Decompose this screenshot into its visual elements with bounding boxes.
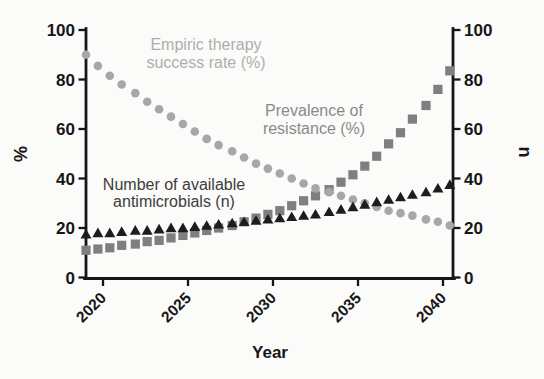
data-point-square bbox=[81, 246, 90, 255]
data-point-triangle bbox=[189, 221, 200, 231]
data-point-triangle bbox=[383, 194, 394, 204]
y-tick-label-left: 60 bbox=[56, 120, 75, 139]
data-point-triangle bbox=[154, 224, 165, 234]
annotation-empiric-line1: Empiric therapy bbox=[150, 36, 261, 53]
data-point-circle bbox=[191, 127, 200, 136]
series-markers bbox=[81, 50, 456, 254]
data-point-square bbox=[93, 244, 102, 253]
y-tick-label-right: 100 bbox=[464, 21, 492, 40]
data-point-circle bbox=[434, 218, 443, 227]
data-point-circle bbox=[155, 105, 164, 114]
data-point-square bbox=[117, 241, 126, 250]
data-point-circle bbox=[396, 209, 405, 218]
axes bbox=[85, 29, 455, 279]
data-point-circle bbox=[299, 179, 308, 188]
data-point-triangle bbox=[310, 209, 321, 219]
data-point-triangle bbox=[92, 228, 103, 238]
data-point-square bbox=[360, 162, 369, 171]
data-point-circle bbox=[131, 89, 140, 98]
y-tick-label-left: 100 bbox=[47, 21, 75, 40]
data-point-circle bbox=[106, 71, 115, 80]
data-point-square bbox=[372, 152, 381, 161]
y-tick-label-left: 0 bbox=[66, 269, 75, 288]
x-tick-label: 2020 bbox=[73, 289, 109, 325]
data-point-circle bbox=[179, 120, 188, 129]
data-point-triangle bbox=[298, 210, 309, 220]
data-point-circle bbox=[117, 80, 126, 89]
y-axis-right-title: n bbox=[515, 147, 535, 158]
figure: 0020204040606080801001002020202520302035… bbox=[0, 0, 544, 379]
data-point-square bbox=[287, 201, 296, 210]
data-point-circle bbox=[337, 192, 346, 201]
data-point-square bbox=[384, 139, 393, 148]
data-point-circle bbox=[325, 188, 334, 197]
data-point-circle bbox=[384, 206, 393, 215]
y-tick-label-right: 40 bbox=[464, 170, 483, 189]
y-tick-label-left: 40 bbox=[56, 170, 75, 189]
data-point-square bbox=[348, 170, 357, 179]
data-point-circle bbox=[264, 164, 273, 173]
data-point-square bbox=[396, 128, 405, 137]
y-axis-left-title: % bbox=[11, 146, 31, 162]
annotation-antimicrobials-line2: antimicrobials (n) bbox=[113, 193, 235, 210]
data-point-square bbox=[336, 178, 345, 187]
y-tick-label-right: 0 bbox=[464, 269, 473, 288]
y-tick-label-right: 80 bbox=[464, 71, 483, 90]
data-point-triangle bbox=[81, 229, 92, 239]
y-tick-label-left: 20 bbox=[56, 219, 75, 238]
data-point-triangle bbox=[116, 226, 127, 236]
data-point-square bbox=[131, 239, 140, 248]
annotation-resistance-line2: resistance (%) bbox=[263, 120, 365, 137]
data-point-circle bbox=[446, 221, 455, 230]
x-tick-label: 2025 bbox=[158, 289, 195, 326]
annotation-resistance-line1: Prevalence of bbox=[265, 102, 363, 119]
data-point-triangle bbox=[347, 202, 358, 212]
x-tick-label: 2030 bbox=[243, 289, 279, 325]
x-tick-label: 2040 bbox=[413, 289, 449, 325]
data-point-circle bbox=[167, 112, 176, 121]
series-annotations: Empiric therapy success rate (%) Prevale… bbox=[103, 36, 365, 210]
chart-svg: 0020204040606080801001002020202520302035… bbox=[0, 0, 544, 379]
data-point-square bbox=[166, 233, 175, 242]
data-point-triangle bbox=[130, 225, 141, 235]
data-point-triangle bbox=[336, 204, 347, 214]
data-point-square bbox=[433, 85, 442, 94]
data-point-triangle bbox=[371, 197, 382, 207]
data-point-circle bbox=[228, 147, 237, 156]
data-point-circle bbox=[143, 97, 152, 106]
y-tick-label-right: 60 bbox=[464, 120, 483, 139]
y-tick-label-left: 80 bbox=[56, 71, 75, 90]
data-point-square bbox=[105, 243, 114, 252]
data-point-triangle bbox=[286, 211, 297, 221]
x-tick-label: 2035 bbox=[328, 289, 365, 326]
data-point-circle bbox=[94, 62, 103, 71]
data-point-square bbox=[421, 101, 430, 110]
data-point-square bbox=[155, 236, 164, 245]
data-point-circle bbox=[276, 169, 285, 178]
data-point-circle bbox=[214, 141, 223, 150]
data-point-square bbox=[143, 237, 152, 246]
data-point-square bbox=[299, 196, 308, 205]
data-point-square bbox=[408, 115, 417, 124]
data-point-triangle bbox=[201, 220, 212, 230]
data-point-triangle bbox=[166, 223, 177, 233]
data-point-triangle bbox=[432, 183, 443, 193]
data-point-square bbox=[445, 66, 454, 75]
data-point-circle bbox=[287, 174, 296, 183]
data-point-square bbox=[178, 231, 187, 240]
data-point-triangle bbox=[407, 189, 418, 199]
x-axis-title: Year bbox=[252, 343, 288, 362]
data-point-triangle bbox=[395, 192, 406, 202]
data-point-circle bbox=[82, 50, 91, 59]
data-point-circle bbox=[252, 159, 261, 168]
annotation-antimicrobials-line1: Number of available bbox=[103, 176, 245, 193]
data-point-circle bbox=[311, 184, 320, 193]
data-point-triangle bbox=[177, 223, 188, 233]
y-tick-label-right: 20 bbox=[464, 219, 483, 238]
data-point-triangle bbox=[421, 187, 432, 197]
data-point-circle bbox=[408, 211, 417, 220]
annotation-empiric-line2: success rate (%) bbox=[146, 54, 265, 71]
data-point-circle bbox=[202, 135, 211, 144]
data-point-circle bbox=[422, 215, 431, 224]
data-point-triangle bbox=[142, 225, 153, 235]
